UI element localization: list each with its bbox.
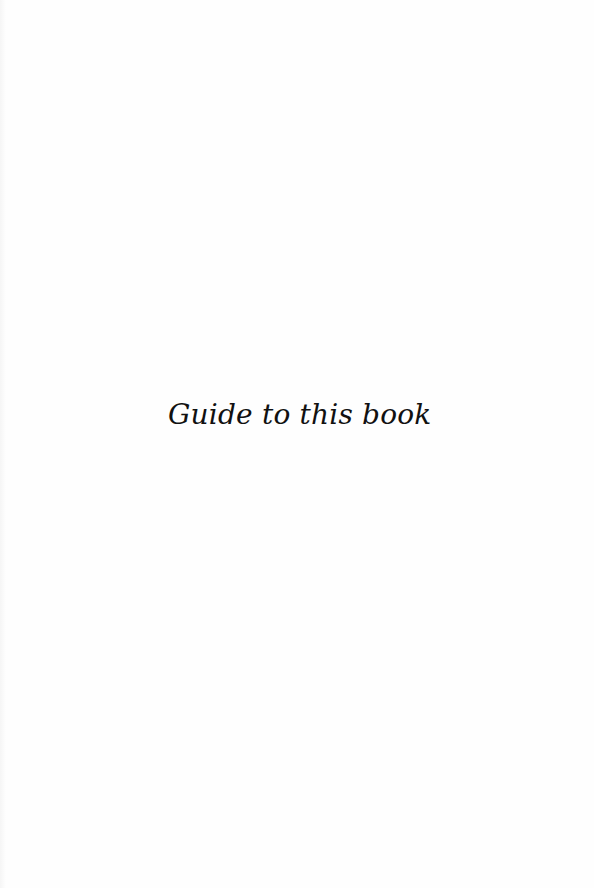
book-page: Guide to this book — [0, 0, 594, 888]
page-edge-shadow — [0, 0, 6, 888]
section-title: Guide to this book — [168, 398, 431, 431]
